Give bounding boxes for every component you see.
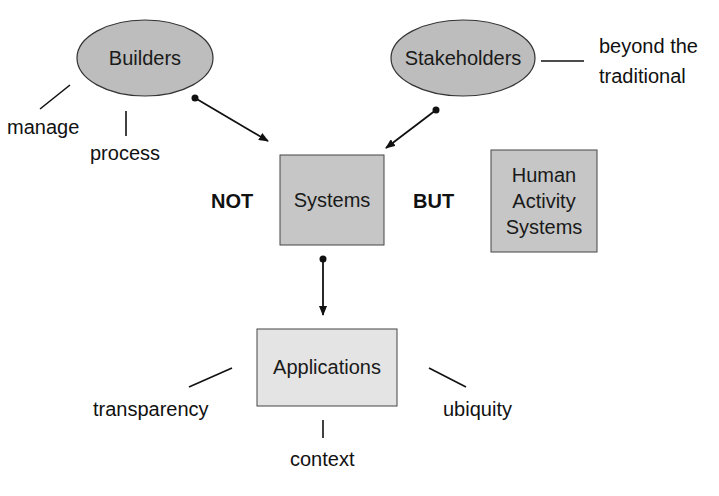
ubiquity-connector-line bbox=[429, 368, 466, 387]
beyond-annotation-line-1: beyond the bbox=[599, 34, 698, 58]
context-annotation: context bbox=[290, 447, 354, 471]
manage-annotation: manage bbox=[7, 115, 79, 139]
process-annotation: process bbox=[90, 141, 160, 165]
human-activity-systems-node: Human Activity Systems bbox=[491, 150, 597, 252]
systems-label: Systems bbox=[294, 188, 371, 213]
has-label-line-2: Activity bbox=[512, 188, 575, 214]
edge-builders-to-systems bbox=[192, 95, 269, 142]
stakeholders-label: Stakeholders bbox=[405, 46, 522, 71]
has-label-line-3: Systems bbox=[506, 214, 583, 240]
transparency-annotation: transparency bbox=[93, 397, 209, 421]
has-label-line-1: Human bbox=[512, 162, 576, 188]
applications-label: Applications bbox=[273, 355, 381, 380]
edge-systems-to-applications bbox=[320, 256, 327, 316]
edge-stakeholders-to-systems bbox=[386, 107, 440, 149]
systems-node: Systems bbox=[280, 155, 384, 245]
builders-label: Builders bbox=[109, 46, 181, 71]
but-label: BUT bbox=[413, 189, 454, 213]
builders-node: Builders bbox=[77, 20, 213, 96]
ubiquity-annotation: ubiquity bbox=[443, 397, 512, 421]
not-label: NOT bbox=[211, 189, 253, 213]
beyond-annotation-line-2: traditional bbox=[599, 64, 686, 88]
stakeholders-node: Stakeholders bbox=[391, 20, 535, 96]
applications-node: Applications bbox=[257, 329, 397, 406]
transparency-connector-line bbox=[189, 368, 232, 387]
manage-connector-line bbox=[40, 85, 70, 109]
